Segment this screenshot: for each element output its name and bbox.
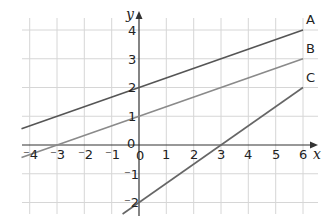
x-tick: ⁻3 bbox=[50, 147, 65, 162]
x-tick: ⁻4 bbox=[23, 147, 38, 162]
y-tick: 3 bbox=[128, 52, 136, 67]
x-tick: ⁻1 bbox=[105, 147, 120, 162]
y-tick: 2 bbox=[128, 80, 136, 95]
x-tick: 4 bbox=[244, 147, 252, 162]
line-b bbox=[22, 59, 304, 158]
x-tick: 0 bbox=[136, 148, 144, 163]
x-tick-labels: ⁻4 ⁻3 ⁻2 ⁻1 0 1 2 3 4 5 6 bbox=[23, 147, 307, 163]
x-tick: 3 bbox=[217, 147, 225, 162]
line-a bbox=[22, 30, 304, 129]
line-chart: A B C y x ⁻4 ⁻3 ⁻2 ⁻1 0 1 2 3 4 5 6 4 3 … bbox=[0, 0, 329, 222]
x-tick: 5 bbox=[272, 147, 280, 162]
line-b-label: B bbox=[306, 41, 315, 56]
y-axis-label: y bbox=[125, 6, 135, 22]
line-a-label: A bbox=[306, 12, 315, 27]
y-tick: 1 bbox=[128, 109, 136, 124]
y-origin-tick: 0 bbox=[127, 136, 135, 151]
line-c-label: C bbox=[306, 70, 315, 85]
y-tick: ⁻1 bbox=[124, 167, 139, 182]
x-tick: 1 bbox=[162, 147, 170, 162]
y-tick: 4 bbox=[128, 23, 136, 38]
y-tick: ⁻2 bbox=[124, 195, 139, 210]
x-tick: ⁻2 bbox=[78, 147, 93, 162]
grid bbox=[22, 18, 318, 214]
x-tick: 6 bbox=[299, 147, 307, 162]
x-tick: 2 bbox=[190, 147, 198, 162]
y-axis-arrow-icon bbox=[136, 11, 143, 19]
x-axis-label: x bbox=[313, 146, 321, 162]
